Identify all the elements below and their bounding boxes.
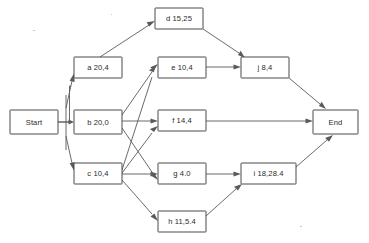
- node-a-label: a 20,4: [87, 63, 109, 72]
- node-end-label: End: [329, 118, 343, 127]
- node-b[interactable]: b 20,0: [74, 110, 122, 134]
- node-a[interactable]: a 20,4: [74, 57, 122, 78]
- edge-c-e: [122, 65, 156, 170]
- node-c[interactable]: c 10,4: [74, 163, 122, 184]
- node-b-label: b 20,0: [87, 118, 109, 127]
- node-f-label: f 14,4: [172, 116, 192, 125]
- node-i[interactable]: i 18,28.4: [241, 163, 296, 184]
- edge-start-c-line: [66, 136, 75, 171]
- node-h-label: h 11,5.4: [168, 217, 196, 226]
- edge-i-end: [296, 135, 333, 167]
- node-start[interactable]: Start: [10, 110, 58, 134]
- node-f[interactable]: f 14,4: [158, 110, 206, 131]
- node-j-label: j 8,4: [257, 63, 273, 72]
- edge-g-i: [206, 171, 241, 176]
- edge-start-fan: [58, 95, 66, 150]
- edge-e-j: [206, 64, 241, 69]
- edge-c-h: [122, 180, 158, 221]
- node-end[interactable]: End: [313, 110, 358, 134]
- edge-c-g: [122, 171, 158, 176]
- edge-start-b-line: [66, 120, 74, 125]
- node-i-label: i 18,28.4: [253, 169, 283, 178]
- edge-f-end: [206, 118, 313, 123]
- edge-start-a: [58, 86, 71, 122]
- node-start-label: Start: [26, 118, 43, 127]
- node-c-label: c 10,4: [87, 169, 108, 178]
- node-j[interactable]: j 8,4: [241, 57, 289, 78]
- node-h[interactable]: h 11,5.4: [158, 211, 206, 232]
- edge-d-j: [203, 29, 245, 58]
- node-e[interactable]: e 10,4: [158, 57, 206, 78]
- edge-start-a-line: [66, 74, 75, 109]
- edge-h-i: [206, 184, 242, 216]
- node-g[interactable]: g 4.0: [158, 163, 206, 184]
- node-d-label: d 15,25: [166, 14, 192, 23]
- edge-b-f: [122, 118, 158, 123]
- edge-c-f: [122, 126, 158, 173]
- network-canvas: Start a 20,4 b 20,0 c 10,4 d 15,25 e 10,: [0, 0, 369, 243]
- edge-j-end: [289, 78, 326, 109]
- node-e-label: e 10,4: [171, 63, 193, 72]
- edge-a-d: [100, 21, 155, 57]
- activity-network-diagram: Start a 20,4 b 20,0 c 10,4 d 15,25 e 10,: [0, 0, 369, 243]
- node-g-label: g 4.0: [173, 169, 190, 178]
- node-d[interactable]: d 15,25: [155, 8, 203, 29]
